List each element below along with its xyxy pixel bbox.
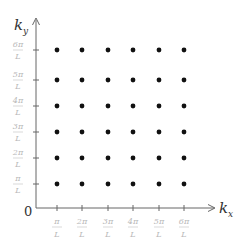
x-tick-numerator: 5π — [154, 217, 165, 226]
y-axis-label: ky — [14, 16, 29, 36]
x-tick-denominator: L — [180, 230, 186, 239]
lattice-point — [157, 48, 162, 53]
y-tick-numerator: 6π — [13, 40, 24, 49]
y-tick-numerator: 4π — [12, 96, 24, 105]
x-tick-numerator: 4π — [127, 217, 139, 226]
x-axis-label: kx — [219, 199, 233, 219]
lattice-point — [157, 104, 162, 109]
lattice-point — [106, 78, 111, 83]
lattice-point — [106, 156, 111, 161]
lattice-point — [55, 156, 60, 161]
lattice-point — [182, 156, 187, 161]
lattice-point — [182, 78, 187, 83]
y-tick-numerator: π — [14, 174, 21, 183]
y-tick-denominator: L — [14, 52, 20, 61]
x-tick-denominator: L — [129, 230, 135, 239]
x-tick-denominator: L — [53, 230, 59, 239]
lattice-point — [131, 182, 136, 187]
lattice-point — [80, 78, 85, 83]
y-tick-denominator: L — [14, 82, 20, 91]
lattice-point — [106, 130, 111, 135]
lattice-point — [55, 130, 60, 135]
lattice-point — [182, 130, 187, 135]
k-space-diagram: ky kx 0 πL2πL3πL4πL5πL6πLπL2πL3πL4πL5πL6… — [0, 0, 242, 248]
lattice-point — [80, 104, 85, 109]
lattice-point — [55, 104, 60, 109]
lattice-point — [182, 182, 187, 187]
x-tick-denominator: L — [78, 230, 84, 239]
lattice-point — [106, 48, 111, 53]
lattice-point — [157, 78, 162, 83]
lattice-point — [157, 130, 162, 135]
y-tick-numerator: 3π — [13, 122, 24, 131]
lattice-point — [157, 182, 162, 187]
lattice-point — [80, 130, 85, 135]
lattice-point — [131, 156, 136, 161]
lattice-point — [131, 78, 136, 83]
lattice-point — [157, 156, 162, 161]
lattice-point — [55, 48, 60, 53]
lattice-point — [131, 104, 136, 109]
x-tick-numerator: π — [53, 217, 60, 226]
y-tick-denominator: L — [14, 108, 20, 117]
x-tick-numerator: 2π — [76, 217, 88, 226]
origin-label: 0 — [24, 204, 32, 219]
x-tick-numerator: 6π — [179, 217, 190, 226]
x-tick-denominator: L — [155, 230, 161, 239]
lattice-point — [131, 48, 136, 53]
lattice-point — [106, 182, 111, 187]
lattice-point — [80, 182, 85, 187]
lattice-point — [182, 48, 187, 53]
x-tick-numerator: 3π — [103, 217, 114, 226]
lattice-point — [131, 130, 136, 135]
lattice-point — [182, 104, 187, 109]
lattice-point — [80, 156, 85, 161]
y-tick-denominator: L — [14, 160, 20, 169]
y-tick-denominator: L — [14, 134, 20, 143]
lattice-point — [106, 104, 111, 109]
x-tick-denominator: L — [104, 230, 110, 239]
y-tick-denominator: L — [14, 186, 20, 195]
lattice-point — [55, 182, 60, 187]
lattice-point — [55, 78, 60, 83]
y-tick-numerator: 5π — [13, 70, 24, 79]
y-tick-numerator: 2π — [12, 148, 24, 157]
lattice-point — [80, 48, 85, 53]
